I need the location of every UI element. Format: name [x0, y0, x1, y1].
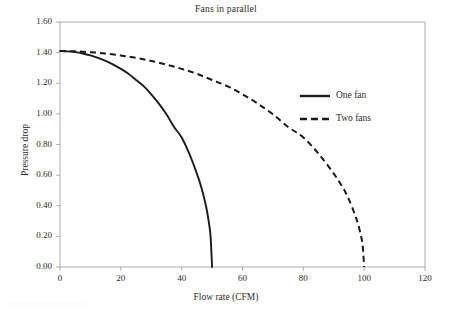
y-tick-label: 1.40: [18, 47, 52, 57]
plot-area: [0, 0, 452, 314]
y-tick-label: 1.20: [18, 77, 52, 87]
x-tick-label: 80: [283, 273, 323, 283]
y-tick-label: 0.60: [18, 169, 52, 179]
y-axis-ticks: [56, 22, 60, 267]
x-tick-label: 100: [344, 273, 384, 283]
x-tick-label: 60: [223, 273, 263, 283]
chart-figure: Fans in parallel Flow rate (CFM) Pressur…: [0, 0, 452, 314]
x-tick-label: 40: [162, 273, 202, 283]
x-tick-label: 20: [101, 273, 141, 283]
x-axis-ticks: [60, 267, 425, 271]
y-tick-label: 1.00: [18, 108, 52, 118]
legend-label-one-fan: One fan: [336, 90, 366, 100]
x-tick-label: 0: [40, 273, 80, 283]
legend-label-two-fans: Two fans: [336, 113, 371, 123]
y-tick-label: 1.60: [18, 16, 52, 26]
y-tick-label: 0.40: [18, 200, 52, 210]
y-tick-label: 0.20: [18, 230, 52, 240]
x-axis-title: Flow rate (CFM): [0, 292, 452, 302]
y-tick-label: 0.80: [18, 139, 52, 149]
x-tick-label: 120: [405, 273, 445, 283]
y-tick-label: 0.00: [18, 261, 52, 271]
plot-frame: [60, 22, 425, 267]
scan-artifact: [6, 302, 86, 307]
